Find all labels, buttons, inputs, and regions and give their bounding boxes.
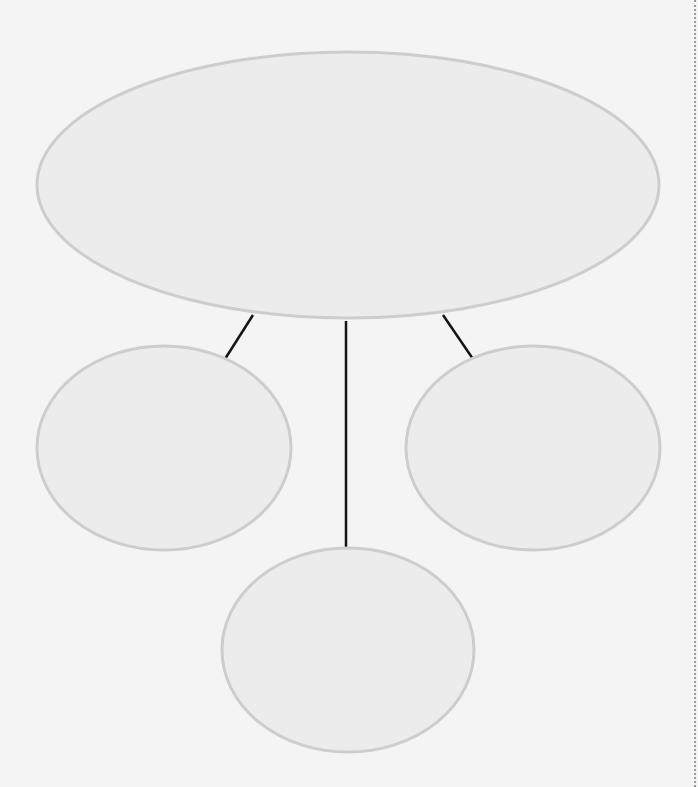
connector-main-right xyxy=(443,315,473,359)
detail-bubble-right[interactable] xyxy=(406,346,660,550)
organizer-diagram xyxy=(0,0,698,787)
connector-main-left xyxy=(225,315,253,359)
detail-bubble-bottom[interactable] xyxy=(222,548,474,752)
worksheet-page xyxy=(0,0,698,787)
main-idea-bubble[interactable] xyxy=(37,52,659,318)
page-edge-divider xyxy=(694,0,696,787)
detail-bubble-left[interactable] xyxy=(37,346,291,550)
